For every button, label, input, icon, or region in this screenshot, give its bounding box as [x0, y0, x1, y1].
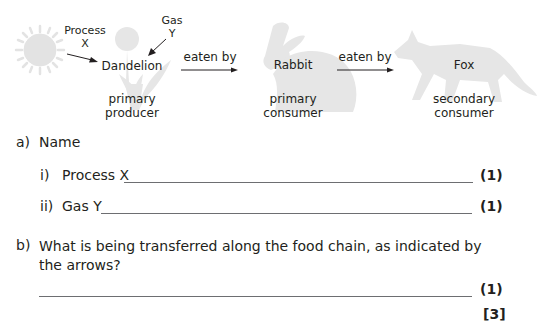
- answer-line-gas-y[interactable]: [101, 213, 472, 214]
- question-a-label: a): [16, 134, 30, 151]
- question-b-label: b): [16, 237, 30, 254]
- process-x-label: Process X: [64, 24, 106, 50]
- food-chain-diagram: Process X Gas Y Dandelion primary produc…: [0, 0, 537, 120]
- organism-name-dandelion: Dandelion: [100, 60, 164, 73]
- question-b-prompt: What is being transferred along the food…: [39, 237, 482, 275]
- sun-icon: [14, 24, 66, 76]
- question-a-i-label: i): [40, 167, 49, 184]
- question-a-ii-text: Gas Y: [62, 198, 102, 215]
- eaten-by-label-1: eaten by: [182, 51, 238, 64]
- process-x-arrow: [66, 52, 100, 64]
- question-a-ii-label: ii): [40, 198, 53, 215]
- eaten-by-label-2: eaten by: [337, 51, 393, 64]
- eaten-by-arrow-1: [181, 66, 239, 74]
- question-a-prompt: Name: [39, 134, 80, 151]
- marks-a-ii: (1): [480, 198, 503, 215]
- answer-line-b[interactable]: [39, 296, 472, 297]
- eaten-by-arrow-2: [337, 66, 395, 74]
- organism-role-rabbit: primary consumer: [263, 92, 323, 120]
- total-marks: [3]: [483, 306, 506, 323]
- gas-y-label: Gas Y: [160, 14, 184, 40]
- marks-a-i: (1): [480, 167, 503, 184]
- gas-y-arrow: [146, 38, 170, 58]
- organism-role-dandelion: primary producer: [100, 92, 164, 120]
- organism-name-rabbit: Rabbit: [263, 59, 323, 72]
- organism-role-fox: secondary consumer: [425, 92, 503, 120]
- question-a-i-text: Process X: [62, 167, 129, 184]
- organism-name-fox: Fox: [432, 59, 496, 72]
- answer-line-process-x[interactable]: [124, 182, 473, 183]
- marks-b: (1): [480, 281, 503, 298]
